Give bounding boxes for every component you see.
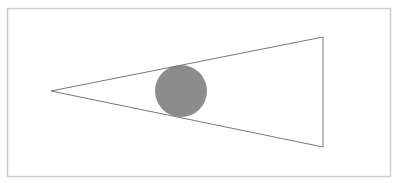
filled-circle — [155, 65, 207, 117]
diagram-canvas — [0, 0, 396, 183]
